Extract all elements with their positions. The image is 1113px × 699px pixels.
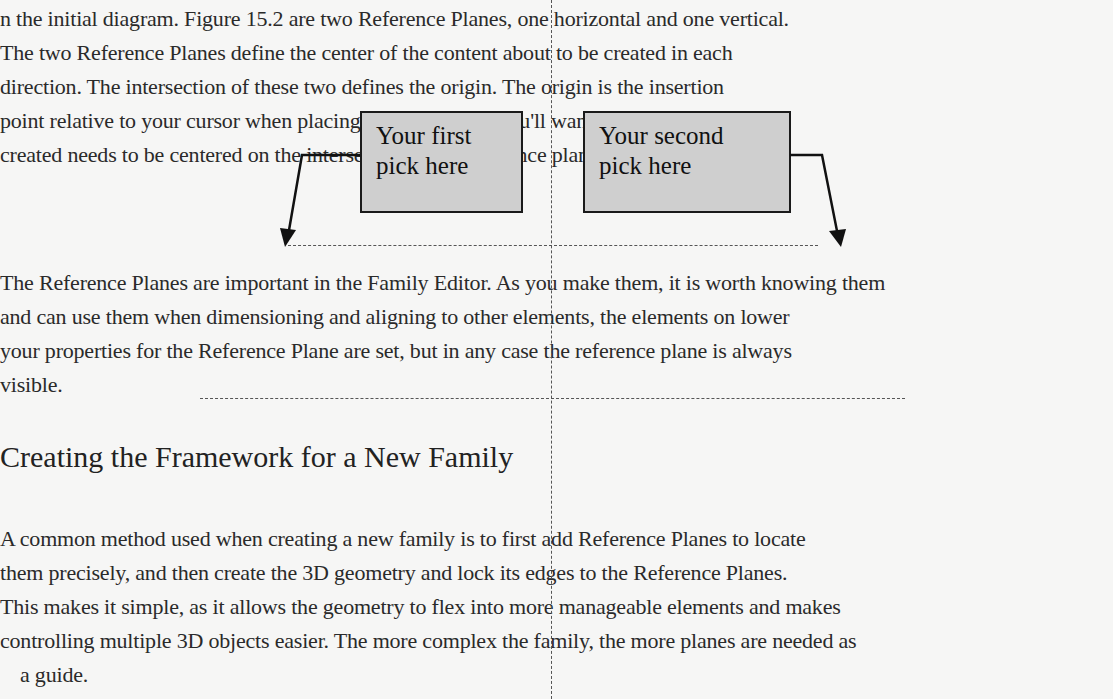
arrow-icon xyxy=(280,155,360,247)
leader-arrows xyxy=(0,0,1113,699)
book-page: in the initial diagram. Figure 15.2 are … xyxy=(0,0,1113,699)
arrow-icon xyxy=(790,155,846,247)
